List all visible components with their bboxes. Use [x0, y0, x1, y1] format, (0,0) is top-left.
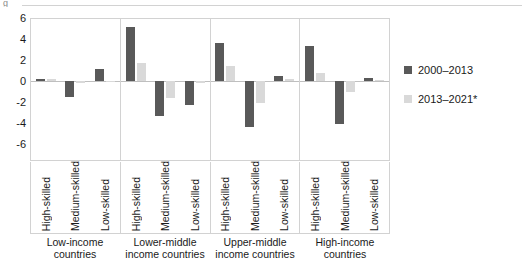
clipped-header-artifact: g	[0, 0, 526, 7]
category-label-group: High-skilledMedium-skilledLow-skilled	[121, 162, 211, 234]
y-tick-label: -6	[0, 139, 26, 149]
category-label: High-skilled	[309, 177, 321, 231]
bar-series-2000-2013	[65, 81, 74, 97]
group-label: Upper-middle income countries	[210, 235, 300, 265]
bar-groups	[31, 19, 389, 160]
bar-series-2013-2021	[166, 81, 175, 98]
bar-series-2000-2013	[215, 43, 224, 81]
category-label-cell: High-skilled	[300, 162, 330, 233]
category-label-cell: Medium-skilled	[150, 162, 180, 233]
legend-swatch-series-1	[404, 66, 412, 74]
bar-series-2000-2013	[335, 81, 344, 124]
bar-series-2000-2013	[126, 27, 135, 81]
bar-series-2013-2021	[285, 79, 294, 81]
bar-pair	[270, 19, 300, 160]
bar-series-2013-2021	[346, 81, 355, 92]
bar-series-2000-2013	[305, 46, 314, 81]
category-label-group: High-skilledMedium-skilledLow-skilled	[211, 162, 301, 234]
category-label: Low-skilled	[368, 179, 380, 231]
bar-group	[31, 19, 120, 160]
category-label: Medium-skilled	[339, 161, 351, 231]
category-label: Low-skilled	[99, 179, 111, 231]
bar-group	[120, 19, 210, 160]
y-tick-label: 0	[0, 76, 26, 86]
bar-pair	[31, 19, 61, 160]
bar-pair	[211, 19, 241, 160]
category-label-cell: High-skilled	[211, 162, 241, 233]
bar-series-2000-2013	[274, 76, 283, 81]
category-label: High-skilled	[219, 177, 231, 231]
category-label-cell: Low-skilled	[180, 162, 210, 233]
category-label-group: High-skilledMedium-skilledLow-skilled	[30, 162, 121, 234]
y-tick-label: -4	[0, 118, 26, 128]
clipped-header-text: g	[3, 0, 8, 7]
bar-series-2000-2013	[36, 79, 45, 81]
category-axis-labels: High-skilledMedium-skilledLow-skilledHig…	[30, 162, 390, 234]
category-label: High-skilled	[130, 177, 142, 231]
bar-pair	[90, 19, 120, 160]
category-label-cell: Low-skilled	[90, 162, 120, 233]
category-label-cell: High-skilled	[31, 162, 61, 233]
bar-series-2013-2021	[196, 81, 205, 83]
bar-pair	[330, 19, 360, 160]
bar-pair	[300, 19, 330, 160]
bar-group	[299, 19, 389, 160]
category-label-cell: High-skilled	[121, 162, 151, 233]
group-label: Lower-middle income countries	[120, 235, 210, 265]
chart-container: g 6 4 2 0 -2 -4 -6 High-skilledMedium-sk…	[0, 0, 526, 269]
category-label-cell: Low-skilled	[270, 162, 300, 233]
y-tick-label: 4	[0, 34, 26, 44]
category-label-cell: Medium-skilled	[330, 162, 360, 233]
bar-series-2000-2013	[185, 81, 194, 105]
legend-item: 2000–2013	[404, 64, 522, 76]
bar-series-2000-2013	[95, 69, 104, 81]
bar-pair	[61, 19, 91, 160]
category-label: Low-skilled	[189, 179, 201, 231]
category-label-group: High-skilledMedium-skilledLow-skilled	[300, 162, 390, 234]
y-tick-label: 2	[0, 55, 26, 65]
chart-legend: 2000–2013 2013–2021*	[404, 64, 522, 122]
y-tick-label: 6	[0, 13, 26, 23]
legend-item: 2013–2021*	[404, 93, 522, 105]
bar-series-2013-2021	[375, 80, 384, 81]
bar-series-2013-2021	[226, 66, 235, 81]
bar-pair	[121, 19, 151, 160]
y-tick-label: -2	[0, 97, 26, 107]
category-label: Medium-skilled	[249, 161, 261, 231]
bar-series-2000-2013	[155, 81, 164, 116]
legend-swatch-series-2	[404, 95, 412, 103]
bar-series-2013-2021	[316, 73, 325, 81]
category-label: Medium-skilled	[69, 161, 81, 231]
bar-pair	[359, 19, 389, 160]
bar-series-2013-2021	[256, 81, 265, 103]
bar-pair	[180, 19, 210, 160]
bar-series-2000-2013	[364, 78, 373, 81]
bar-pair	[240, 19, 270, 160]
group-label: High-income countries	[300, 235, 390, 265]
category-label: Medium-skilled	[159, 161, 171, 231]
bar-series-2013-2021	[106, 81, 115, 82]
legend-label: 2013–2021*	[418, 93, 477, 105]
bar-pair	[150, 19, 180, 160]
category-label: High-skilled	[40, 177, 52, 231]
category-label-cell: Medium-skilled	[61, 162, 91, 233]
bar-series-2000-2013	[245, 81, 254, 127]
plot-area	[30, 18, 390, 161]
header-divider	[22, 5, 522, 6]
bar-series-2013-2021	[47, 79, 56, 81]
group-axis-labels: Low-income countriesLower-middle income …	[30, 235, 390, 265]
legend-label: 2000–2013	[418, 64, 473, 76]
bar-group	[210, 19, 300, 160]
bar-series-2013-2021	[76, 81, 85, 83]
group-label: Low-income countries	[30, 235, 120, 265]
category-label-cell: Medium-skilled	[240, 162, 270, 233]
category-label: Low-skilled	[278, 179, 290, 231]
category-label-cell: Low-skilled	[359, 162, 389, 233]
bar-series-2013-2021	[137, 63, 146, 81]
